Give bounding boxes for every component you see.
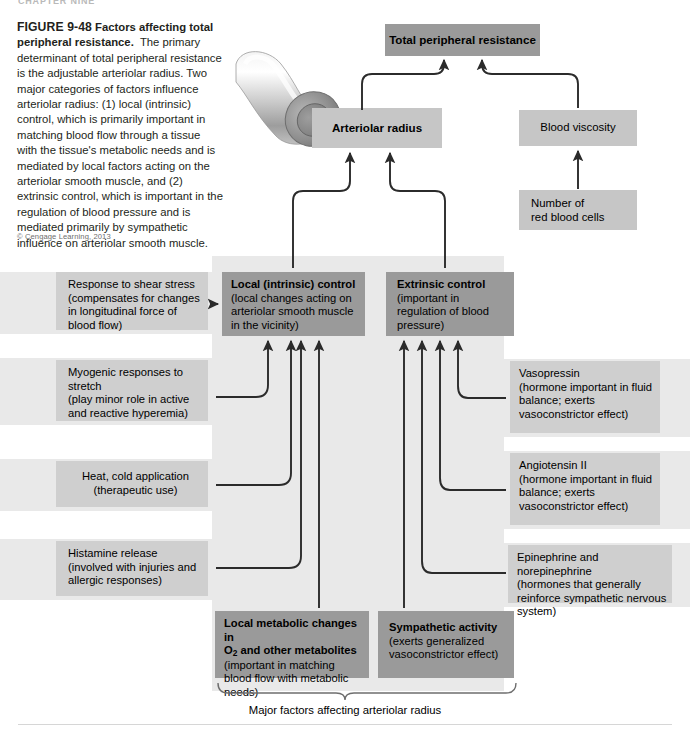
- box-label: Blood viscosity: [540, 121, 615, 135]
- box-myogenic-responses-to-stretch[interactable]: Myogenic responses to stretch (play mino…: [56, 360, 208, 421]
- running-header: CHAPTER NINE: [18, 0, 95, 4]
- figure-page: CHAPTER NINE FIGURE 9-48 Factors affecti…: [0, 0, 690, 730]
- panel-notch: [0, 256, 212, 272]
- box-sympathetic-activity[interactable]: Sympathetic activity (exerts generalized…: [378, 611, 514, 678]
- box-angiotensin-ii[interactable]: Angiotensin II (hormone important in flu…: [510, 453, 660, 525]
- box-arteriolar-radius[interactable]: Arteriolar radius: [312, 108, 442, 148]
- box-heading-o2-subscript: 2: [233, 648, 238, 658]
- box-label: Arteriolar radius: [332, 121, 422, 135]
- box-heading-line1: Local metabolic changes in: [224, 617, 357, 643]
- box-number-of-red-blood-cells[interactable]: Number of red blood cells: [519, 190, 637, 230]
- figure-number: FIGURE 9-48: [17, 20, 92, 34]
- arrow-local-to-arteriolar: [293, 153, 350, 268]
- panel-notch: [0, 600, 212, 691]
- box-response-to-shear-stress[interactable]: Response to shear stress (compensates fo…: [56, 272, 208, 330]
- box-heading: Epinephrine and norepinephrine: [517, 551, 599, 577]
- panel-notch: [0, 425, 212, 459]
- box-detail: (local changes acting on arteriolar smoo…: [231, 292, 353, 331]
- box-vasopressin[interactable]: Vasopressin (hormone important in fluid …: [510, 361, 660, 433]
- arrow-viscosity-to-tpr: [482, 60, 578, 108]
- box-heading: Sympathetic activity: [389, 621, 497, 633]
- bottom-divider: [18, 724, 672, 725]
- box-blood-viscosity[interactable]: Blood viscosity: [519, 110, 637, 146]
- box-detail: (hormone important in fluid balance; exe…: [519, 473, 652, 512]
- box-heading: Extrinsic control: [397, 278, 485, 290]
- figure-caption-body: The primary determinant of total periphe…: [17, 36, 223, 248]
- box-label-line1: Number of: [531, 197, 628, 211]
- box-detail: (hormone important in fluid balance; exe…: [519, 381, 652, 420]
- box-detail: (involved with injuries and allergic res…: [68, 561, 196, 587]
- box-detail: (therapeutic use): [68, 484, 203, 498]
- figure-caption: FIGURE 9-48 Factors affecting total peri…: [17, 20, 223, 251]
- box-epinephrine-norepinephrine[interactable]: Epinephrine and norepinephrine (hormones…: [508, 545, 672, 603]
- box-label: Total peripheral resistance: [389, 33, 536, 47]
- box-heading: Vasopressin: [519, 367, 580, 379]
- box-heading-o2-pre: O: [224, 644, 233, 656]
- panel-notch: [504, 256, 690, 359]
- box-heading: Response to shear stress: [68, 278, 195, 290]
- brace-caption: Major factors affecting arteriolar radiu…: [0, 704, 690, 716]
- panel-notch: [0, 334, 212, 358]
- vessel-highlight: [245, 57, 303, 108]
- box-heading: Histamine release: [68, 547, 158, 559]
- box-label-line2: red blood cells: [531, 211, 628, 225]
- box-total-peripheral-resistance[interactable]: Total peripheral resistance: [385, 24, 540, 56]
- panel-notch: [504, 607, 690, 691]
- arrow-arteriolar-to-tpr: [362, 60, 444, 110]
- box-heading: Myogenic responses to stretch: [68, 366, 183, 392]
- box-detail: (important in regulation of blood pressu…: [397, 292, 489, 331]
- box-detail: (play minor role in active and reactive …: [68, 393, 189, 419]
- box-heading: Local (intrinsic) control: [231, 278, 355, 290]
- box-detail: (compensates for changes in longitudinal…: [68, 292, 200, 331]
- panel-notch: [504, 437, 690, 451]
- box-heat-cold-application[interactable]: Heat, cold application (therapeutic use): [56, 461, 208, 507]
- box-heading-o2-post: and other metabolites: [237, 644, 356, 656]
- box-heading: Angiotensin II: [519, 459, 587, 471]
- box-detail: (important in matching blood flow with m…: [224, 659, 348, 698]
- box-histamine-release[interactable]: Histamine release (involved with injurie…: [56, 541, 208, 596]
- box-extrinsic-control[interactable]: Extrinsic control (important in regulati…: [386, 272, 514, 336]
- box-local-metabolic-changes[interactable]: Local metabolic changes in O2 and other …: [215, 611, 369, 678]
- panel-notch: [0, 511, 212, 539]
- arrow-extrinsic-to-arteriolar: [390, 153, 445, 268]
- box-detail: (exerts generalized vasoconstrictor effe…: [389, 635, 498, 661]
- box-heading: Heat, cold application: [68, 470, 203, 484]
- box-local-intrinsic-control[interactable]: Local (intrinsic) control (local changes…: [222, 272, 365, 336]
- panel-notch: [504, 529, 690, 543]
- copyright-notice: © Cengage Learning, 2013: [17, 232, 111, 241]
